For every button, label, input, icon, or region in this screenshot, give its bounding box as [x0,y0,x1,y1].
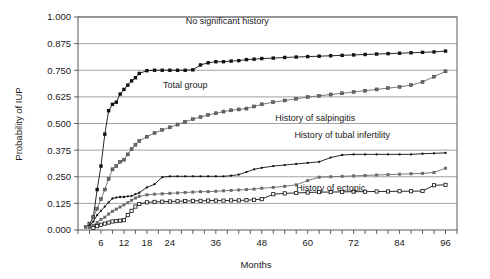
data-point [134,76,137,79]
data-point [161,200,164,203]
data-point [103,132,106,135]
data-point [260,198,263,201]
data-point [237,199,240,202]
data-point [352,53,355,56]
data-point [260,103,263,106]
data-point [398,85,401,88]
data-point [421,153,423,155]
data-point [92,216,95,219]
data-point [222,60,225,63]
data-point [386,52,389,55]
data-point [295,163,297,165]
data-point [245,171,247,173]
data-point [100,210,102,212]
data-point [340,54,343,57]
data-point [421,80,424,83]
data-point [123,196,125,198]
x-tick-label: 60 [302,237,313,248]
data-point [107,201,109,203]
data-point [99,223,102,226]
data-point [272,165,274,167]
x-axis-title: Months [240,259,271,270]
data-point [96,214,98,216]
data-point [119,219,122,222]
y-axis-tick-labels: 0.0000.1250.2500.3750.5000.6250.7500.875… [47,11,71,235]
data-point [122,158,125,161]
data-point [272,56,275,59]
data-point [222,175,224,177]
data-point [398,173,401,176]
data-point [261,167,263,169]
data-point [96,225,99,228]
data-point [237,108,240,111]
data-point [237,59,240,62]
data-point [329,93,332,96]
data-point [130,195,132,197]
x-tick-label: 84 [394,237,405,248]
data-point [192,175,194,177]
data-point [272,186,275,189]
series-line [89,153,445,226]
data-point [230,109,233,112]
data-point [168,192,171,195]
data-point [253,105,256,108]
data-point [245,188,248,191]
data-series-group [84,49,447,229]
data-point [433,75,436,78]
data-point [168,200,171,203]
data-point [229,59,232,62]
data-point [126,213,129,216]
data-point [222,110,225,113]
data-point [130,199,133,202]
data-point [153,132,156,135]
data-point [122,203,125,206]
data-point [199,63,202,66]
data-point [134,193,136,195]
data-point [134,143,137,146]
data-point [387,173,390,176]
data-point [352,153,354,155]
data-point [103,222,106,225]
series-line [89,51,445,224]
data-point [111,168,114,171]
data-point [295,55,298,58]
data-point [260,57,263,60]
data-point [245,107,248,110]
data-point [199,199,202,202]
data-point [432,184,435,187]
data-point [176,200,179,203]
x-tick-label: 12 [119,237,130,248]
x-tick-label: 72 [348,237,359,248]
x-tick-label: 96 [440,237,451,248]
series-label-5: History of ectopic [296,183,366,193]
x-tick-label: 18 [142,237,153,248]
data-point [207,113,210,116]
data-point [363,53,366,56]
y-tick-label: 0.375 [47,145,71,156]
data-point [119,196,121,198]
data-point [176,191,179,194]
data-point [153,69,156,72]
data-point [352,174,355,177]
data-point [126,83,129,86]
x-axis-tick-labels: 6121824364860728496 [98,237,450,248]
data-point [176,69,179,72]
data-point [387,87,390,90]
data-point [272,101,275,104]
data-point [130,148,133,151]
data-point [306,96,309,99]
data-point [410,84,413,87]
data-point [138,195,141,198]
data-point [115,196,117,198]
data-point [145,69,148,72]
data-point [107,221,110,224]
data-point [444,152,446,154]
data-point [206,61,209,64]
data-point [138,192,140,194]
series-5 [92,183,447,229]
data-point [421,51,424,54]
data-point [318,161,320,163]
data-point [126,153,129,156]
data-point [138,202,141,205]
data-point [237,188,240,191]
